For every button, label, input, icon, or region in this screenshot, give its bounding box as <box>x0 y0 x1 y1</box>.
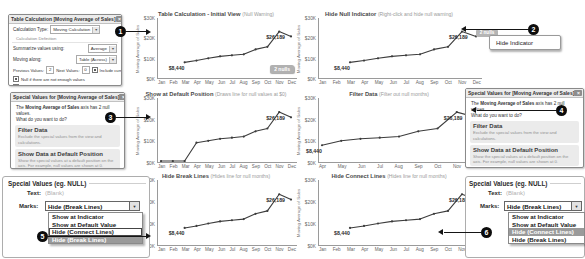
summarize-select[interactable]: Average ▼ <box>88 44 117 53</box>
y-axis-label: Moving Average of Sales <box>135 98 142 163</box>
filter-data-option[interactable]: Filter Data Exclude the special values f… <box>470 121 579 142</box>
chart-title: Filter Data (Filter out null months) <box>296 90 482 98</box>
data-point <box>377 57 379 59</box>
x-tick-label: Jan <box>319 79 326 86</box>
menu-item-show-at-default-value[interactable]: Show at Default Value <box>49 221 142 229</box>
calculation-type-select[interactable]: Moving Calculation ▼ <box>50 25 100 34</box>
data-point <box>266 210 268 212</box>
close-icon[interactable]: × <box>116 16 122 22</box>
show-default-position-option[interactable]: Show Data at Default Position Show the s… <box>470 145 579 166</box>
data-point <box>447 46 449 48</box>
x-axis-ticks: JanFebMarAprMayJunJulAugSepOctNovDec <box>157 79 297 86</box>
x-tick-label: May <box>205 163 214 170</box>
data-point <box>231 54 233 56</box>
menu-item-show-at-indicator[interactable]: Show at Indicator <box>509 213 584 221</box>
y-axis-ticks: $30K$20K$10K$0K <box>303 18 318 79</box>
y-tick-label: $20K <box>305 200 316 205</box>
data-point <box>231 137 233 139</box>
y-tick-label: $30K <box>305 16 316 21</box>
x-tick-label: Mar <box>182 163 190 170</box>
y-axis-label: Moving Average of Sales <box>296 98 303 163</box>
moving-along-label: Moving along: <box>13 57 42 62</box>
x-tick-label: Jun <box>218 246 225 253</box>
data-point-label: $26,189 <box>444 115 463 121</box>
figure-canvas: Table Calculation [Moving Average of Sal… <box>0 0 585 259</box>
menu-item-hide-break-lines[interactable]: Hide (Break Lines) <box>509 236 584 244</box>
x-tick-label: Mar <box>347 79 355 86</box>
data-point <box>195 59 197 61</box>
panel-header: Special Values (eg. NULL) <box>469 180 581 187</box>
menu-item-hide-connect-lines[interactable]: Hide (Connect Lines) <box>509 228 584 236</box>
y-tick-label: $30K <box>305 178 316 183</box>
x-tick-label: Dec <box>288 163 296 170</box>
annotation-badge-2: 2 <box>528 24 539 35</box>
previous-values-field[interactable]: 2 <box>46 66 54 74</box>
data-point <box>391 220 393 222</box>
x-tick-label: Jul <box>377 163 383 170</box>
arrowhead-icon <box>146 233 151 239</box>
y-axis-ticks: $30K$20K$10K$0K <box>142 18 157 79</box>
close-icon[interactable]: × <box>574 90 582 96</box>
show-default-position-option[interactable]: Show Data at Default Position Show the s… <box>15 149 120 169</box>
hide-indicator-menu-item[interactable]: Hide Indicator <box>489 35 561 50</box>
chevron-down-icon: ▼ <box>571 202 581 210</box>
data-point <box>278 111 280 113</box>
x-tick-label: Sep <box>430 246 438 253</box>
y-tick-label: $30K <box>305 96 316 101</box>
menu-item-hide-connect-lines[interactable]: Hide (Connect Lines) <box>49 228 142 236</box>
x-tick-label: Aug <box>240 246 248 253</box>
text-label: Text: <box>488 190 502 196</box>
x-tick-label: Jan <box>319 246 326 253</box>
secondary-calc-checkbox[interactable] <box>13 84 19 86</box>
data-point <box>207 57 209 59</box>
data-point <box>405 219 407 221</box>
null-option-label: Null if there are not enough values <box>21 77 85 82</box>
data-point <box>243 218 245 220</box>
annotation-arrow-2 <box>466 29 528 30</box>
special-values-dialog-right: Special Values for [Moving Average of Sa… <box>465 88 584 168</box>
x-axis-ticks: JanFebMarAprMayJunJulAugSepOctNovDec <box>157 246 297 253</box>
chart-title: Table Calculation - Initial View (Null W… <box>135 10 297 18</box>
marks-dropdown[interactable]: Hide (Break Lines) ▼ <box>45 201 140 211</box>
x-tick-label: Aug <box>416 79 424 86</box>
summarize-label: Summarize values using: <box>13 46 64 51</box>
x-tick-label: Oct <box>264 246 271 253</box>
marks-menu: Show at Indicator Show at Default Value … <box>508 212 585 244</box>
menu-item-show-at-default-value[interactable]: Show at Default Value <box>509 221 584 229</box>
next-values-field[interactable]: 0 <box>82 66 90 74</box>
x-tick-label: Apr <box>194 163 201 170</box>
x-tick-label: Oct <box>434 163 441 170</box>
x-tick-label: Sep <box>252 246 260 253</box>
annotation-arrow-5 <box>48 236 146 237</box>
x-axis-ticks: JanFebMarAprMayJunJulAugSepOctNovDec <box>318 79 482 86</box>
x-tick-label: Feb <box>170 246 178 253</box>
x-tick-label: Dec <box>288 79 296 86</box>
close-icon[interactable]: × <box>119 94 125 100</box>
null-option-checkbox[interactable] <box>13 76 19 82</box>
data-point <box>207 140 209 142</box>
marks-dropdown[interactable]: Hide (Break Lines) ▼ <box>504 201 582 211</box>
text-label: Text: <box>27 190 41 196</box>
chart-title: Hide Break Lines (Hides line for null mo… <box>135 172 297 180</box>
y-axis-label: Moving Average of Sales <box>296 180 303 246</box>
filter-data-option[interactable]: Filter Data Exclude the special values f… <box>15 125 120 146</box>
y-tick-label: $10K <box>305 139 316 144</box>
line-plot <box>319 98 482 162</box>
menu-item-show-at-indicator[interactable]: Show at Indicator <box>49 213 142 221</box>
special-values-panel-left: Special Values (eg. NULL) Text: (Blank) … <box>2 176 150 258</box>
moving-along-select[interactable]: Table (Across) ▼ <box>76 55 117 64</box>
annotation-badge-3: 3 <box>105 112 116 123</box>
chart-hide-break-lines: Hide Break Lines (Hides line for null mo… <box>135 172 297 253</box>
data-point <box>461 193 463 195</box>
y-tick-label: $0K <box>307 244 316 249</box>
data-point <box>195 225 197 227</box>
data-point <box>278 193 280 195</box>
null-indicator-pill[interactable]: 2 nulls <box>270 65 294 73</box>
x-tick-label: Jun <box>358 163 365 170</box>
annotation-badge-6: 6 <box>481 227 492 238</box>
dialog-titlebar: Table Calculation [Moving Average of Sal… <box>9 15 121 24</box>
include-current-checkbox[interactable] <box>92 67 98 73</box>
y-axis-ticks: $30K$20K$10K$0K <box>142 98 157 163</box>
marks-menu: Show at Indicator Show at Default Value … <box>48 212 143 244</box>
x-tick-label: Jan <box>158 79 165 86</box>
